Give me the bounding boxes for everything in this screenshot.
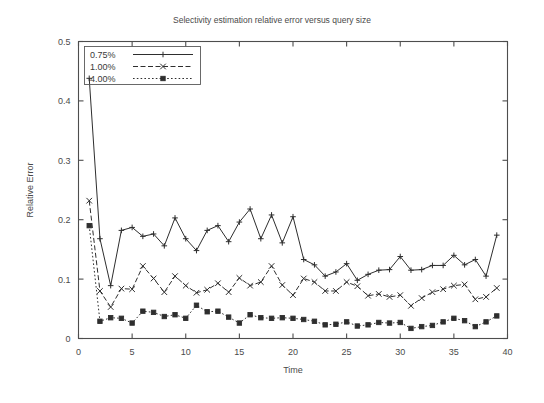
x-tick-label: 30 (395, 347, 405, 357)
y-axis-ticks: 00.10.20.30.40.5 (58, 37, 508, 344)
x-tick-label: 25 (342, 347, 352, 357)
series-group (86, 76, 499, 331)
y-tick-label: 0.3 (58, 156, 71, 166)
y-tick-label: 0 (65, 334, 70, 344)
x-axis-label: Time (283, 365, 303, 375)
x-tick-label: 0 (76, 347, 81, 357)
x-tick-label: 10 (181, 347, 191, 357)
legend-label-2: 4.00% (90, 74, 116, 84)
x-tick-label: 40 (502, 347, 512, 357)
x-tick-label: 35 (449, 347, 459, 357)
chart-canvas: Selectivity estimation relative error ve… (0, 0, 544, 403)
y-tick-label: 0.1 (58, 275, 71, 285)
y-tick-label: 0.5 (58, 37, 71, 47)
x-tick-label: 15 (234, 347, 244, 357)
x-tick-label: 5 (130, 347, 135, 357)
x-tick-label: 20 (288, 347, 298, 357)
legend-line-samples (133, 52, 193, 81)
y-tick-label: 0.4 (58, 96, 71, 106)
plot-frame (79, 42, 508, 339)
legend-label-0: 0.75% (90, 50, 116, 60)
chart-legend: 0.75% 1.00% 4.00% (85, 47, 201, 85)
y-axis-label: Relative Error (25, 162, 35, 217)
legend-label-1: 1.00% (90, 62, 116, 72)
series-0 (86, 76, 499, 289)
y-tick-label: 0.2 (58, 215, 71, 225)
chart-title: Selectivity estimation relative error ve… (173, 15, 371, 25)
chart-figure: Selectivity estimation relative error ve… (0, 0, 544, 403)
series-2 (87, 223, 499, 330)
